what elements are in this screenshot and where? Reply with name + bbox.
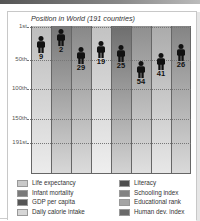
chart-title: Position in World (191 countries) — [31, 14, 135, 23]
marker-human-dev-index: 26 — [171, 44, 191, 69]
legend-swatch — [17, 209, 28, 216]
person-icon — [56, 29, 66, 46]
person-icon — [96, 41, 106, 58]
column-schooling-index — [131, 26, 151, 174]
marker-educational-rank: 41 — [151, 53, 171, 78]
column-educational-rank — [151, 26, 171, 174]
person-icon — [116, 45, 126, 62]
y-tick-1st: 1st — [8, 23, 27, 29]
marker-life-expectancy: 9 — [31, 36, 51, 61]
legend-swatch — [17, 199, 28, 206]
gridline-150th — [27, 119, 191, 120]
person-icon — [76, 47, 86, 64]
marker-daily-calorie-intake: 19 — [91, 41, 111, 66]
legend-swatch — [17, 190, 28, 197]
marker-infant-mortality: 2 — [51, 29, 71, 54]
x-axis-line — [31, 173, 191, 174]
marker-schooling-index: 54 — [131, 61, 151, 86]
marker-gdp-per-capita: 29 — [71, 47, 91, 72]
y-tick-191st: 191st — [8, 139, 27, 145]
person-icon — [176, 44, 186, 61]
person-icon — [136, 61, 146, 78]
marker-literacy: 25 — [111, 45, 131, 70]
person-icon — [36, 36, 46, 53]
legend-swatch — [119, 190, 130, 197]
legend-swatch — [119, 209, 130, 216]
y-tick-150th: 150th — [8, 115, 27, 121]
top-border-bar — [0, 0, 200, 4]
legend-swatch — [17, 180, 28, 187]
y-tick-100th: 100th — [8, 85, 27, 91]
gridline-100th — [27, 89, 191, 90]
y-tick-50th: 50th — [8, 56, 27, 62]
legend-swatch — [119, 180, 130, 187]
person-icon — [156, 53, 166, 70]
gridline-191st — [27, 143, 191, 144]
legend-swatch — [119, 199, 130, 206]
gridline-1st — [27, 27, 191, 28]
